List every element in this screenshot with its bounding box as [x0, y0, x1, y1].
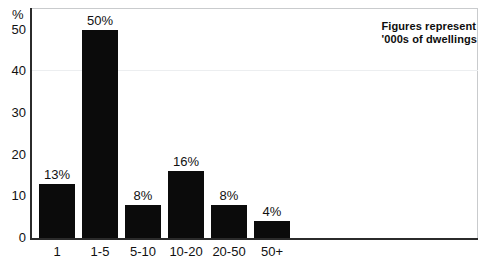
bar-group: 50% — [82, 9, 118, 238]
bar-value-label: 4% — [263, 205, 282, 218]
y-tick-label: 50 — [0, 23, 26, 36]
bar-chart: % 01020304050 13%50%8%16%8%4% 11-55-1010… — [0, 0, 489, 265]
bar — [39, 184, 75, 238]
category-label: 1 — [39, 245, 75, 259]
category-label: 1-5 — [82, 245, 118, 259]
y-tick-label: 10 — [0, 189, 26, 202]
x-axis-line — [30, 238, 478, 240]
bar — [125, 205, 161, 238]
y-tick-label: 30 — [0, 106, 26, 119]
bar-value-label: 50% — [87, 14, 113, 27]
bar-group: 4% — [254, 9, 290, 238]
annotation-line-2: '000s of dwellings — [382, 33, 478, 46]
category-label: 10-20 — [168, 245, 204, 259]
annotation-line-1: Figures represent — [382, 20, 478, 33]
bar — [82, 30, 118, 238]
bar-group: 16% — [168, 9, 204, 238]
bar — [254, 221, 290, 238]
y-axis-tick-labels: 01020304050 — [0, 0, 26, 265]
bar-value-label: 16% — [173, 155, 199, 168]
bar-value-label: 8% — [134, 189, 153, 202]
y-tick-label: 40 — [0, 64, 26, 77]
chart-annotation: Figures represent '000s of dwellings — [382, 20, 478, 46]
category-label: 5-10 — [125, 245, 161, 259]
bar-group: 8% — [211, 9, 247, 238]
category-label: 20-50 — [211, 245, 247, 259]
y-tick-label: 0 — [0, 231, 26, 244]
bar-group: 13% — [39, 9, 75, 238]
bar — [168, 171, 204, 238]
bar-group: 8% — [125, 9, 161, 238]
y-tick-label: 20 — [0, 148, 26, 161]
bar — [211, 205, 247, 238]
bar-value-label: 13% — [44, 168, 70, 181]
bar-value-label: 8% — [220, 189, 239, 202]
category-label: 50+ — [254, 245, 290, 259]
